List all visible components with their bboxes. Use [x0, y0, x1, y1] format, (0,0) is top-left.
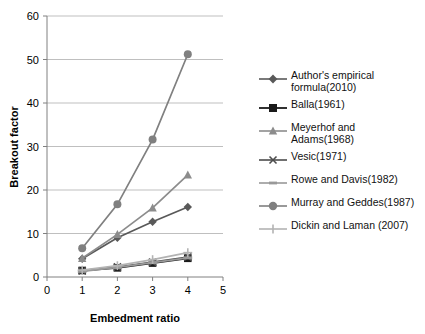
x-axis-title: Embedment ratio: [90, 312, 180, 324]
legend-item-meyerhof-and-adams[interactable]: Meyerhof and Adams(1968): [258, 122, 425, 145]
legend-label: Vesic(1971): [288, 151, 346, 163]
legend-label: Rowe and Davis(1982): [288, 174, 398, 186]
y-axis-title: Breakout factor: [8, 106, 20, 188]
legend-label: Author's empirical formula(2010): [288, 70, 374, 93]
legend-label: Dickin and Laman (2007): [288, 220, 408, 232]
x-tick-label: 4: [185, 284, 191, 296]
x-tick-marks: [47, 277, 223, 281]
y-tick-label: 40: [27, 97, 39, 109]
chart-legend: Author's empirical formula(2010) Balla(1…: [258, 70, 425, 243]
legend-item-balla[interactable]: Balla(1961): [258, 99, 425, 116]
y-tick-label: 50: [27, 54, 39, 66]
y-tick-label: 0: [33, 271, 39, 283]
y-tick-label: 30: [27, 141, 39, 153]
legend-label: Balla(1961): [288, 99, 345, 111]
legend-key-plus-icon: [258, 221, 288, 237]
x-tick-labels: 0 1 2 3 4 5: [44, 284, 226, 296]
legend-item-murray-and-geddes[interactable]: Murray and Geddes(1987): [258, 197, 425, 214]
x-tick-label: 2: [114, 284, 120, 296]
data-point: [149, 136, 157, 144]
data-point: [184, 50, 192, 58]
x-tick-label: 3: [150, 284, 156, 296]
legend-label: Murray and Geddes(1987): [288, 197, 414, 209]
legend-key-diamond-icon: [258, 71, 288, 87]
legend-key-square-icon: [258, 100, 288, 116]
legend-key-circle-icon: [258, 198, 288, 214]
legend-key-triangle-icon: [258, 123, 288, 139]
data-point: [113, 200, 121, 208]
y-tick-label: 20: [27, 184, 39, 196]
y-tick-label: 10: [27, 228, 39, 240]
legend-item-dickin-and-laman[interactable]: Dickin and Laman (2007): [258, 220, 425, 237]
legend-label: Meyerhof and Adams(1968): [288, 122, 355, 145]
legend-key-dash-icon: [258, 175, 288, 191]
chart-figure: 60 50 40 30 20 10 0 0 1 2 3 4 5 Embedmen…: [0, 0, 425, 334]
y-tick-label: 60: [27, 10, 39, 22]
y-tick-labels: 60 50 40 30 20 10 0: [27, 10, 39, 283]
x-tick-label: 0: [44, 284, 50, 296]
legend-item-vesic[interactable]: Vesic(1971): [258, 151, 425, 168]
legend-item-authors-empirical-formula[interactable]: Author's empirical formula(2010): [258, 70, 425, 93]
data-point: [78, 244, 86, 252]
y-tick-marks: [43, 16, 47, 277]
legend-item-rowe-and-davis[interactable]: Rowe and Davis(1982): [258, 174, 425, 191]
legend-key-cross-icon: [258, 152, 288, 168]
x-tick-label: 1: [79, 284, 85, 296]
x-tick-label: 5: [220, 284, 226, 296]
